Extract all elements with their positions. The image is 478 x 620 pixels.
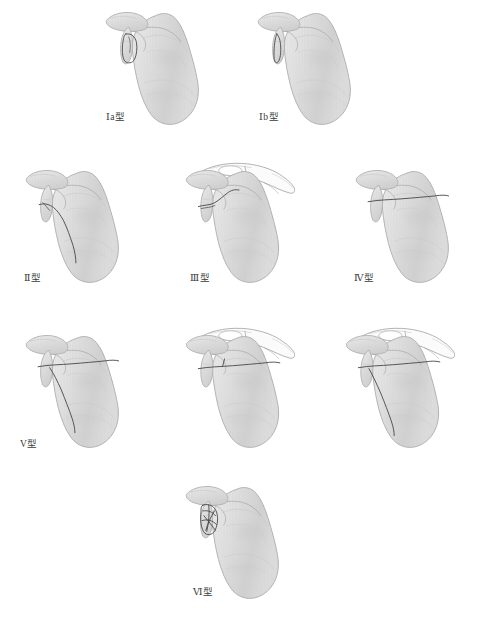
- figure-label-type-6: Ⅵ型: [193, 588, 214, 598]
- scapula-diagram: [172, 325, 310, 455]
- figure-label-type-5: V型: [20, 440, 38, 450]
- scapula-figure-type-5: [8, 325, 138, 455]
- scapula-figure-type-5c-unlabeled: [332, 325, 470, 455]
- scapula-classification-figure: Ⅰa型: [0, 0, 478, 620]
- scapula-diagram: [338, 160, 468, 290]
- figure-label-type-1b: Ⅰb型: [259, 113, 279, 123]
- figure-label-type-4: Ⅳ型: [354, 274, 375, 284]
- scapula-figure-type-3: [172, 160, 310, 290]
- figure-label-type-1a: Ⅰa型: [106, 113, 126, 123]
- scapula-figure-type-2: [8, 160, 138, 290]
- figure-label-type-3: Ⅲ型: [190, 274, 210, 284]
- scapula-diagram: [168, 476, 298, 606]
- scapula-diagram: [332, 325, 470, 455]
- scapula-diagram: [172, 160, 310, 290]
- scapula-diagram: [8, 160, 138, 290]
- scapula-diagram: [8, 325, 138, 455]
- scapula-figure-type-6: [168, 476, 298, 606]
- figure-label-type-2: Ⅱ型: [24, 274, 42, 284]
- scapula-figure-type-5b-unlabeled: [172, 325, 310, 455]
- scapula-figure-type-4: [338, 160, 468, 290]
